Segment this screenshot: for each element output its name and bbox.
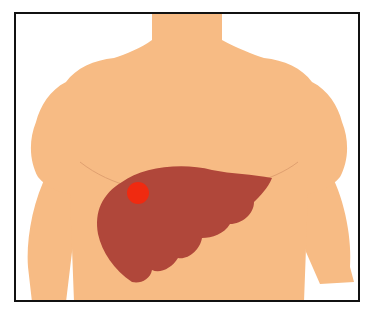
figure-frame <box>14 12 360 302</box>
tumor <box>127 182 149 204</box>
torso-illustration <box>16 14 360 302</box>
torso-body <box>31 14 347 302</box>
